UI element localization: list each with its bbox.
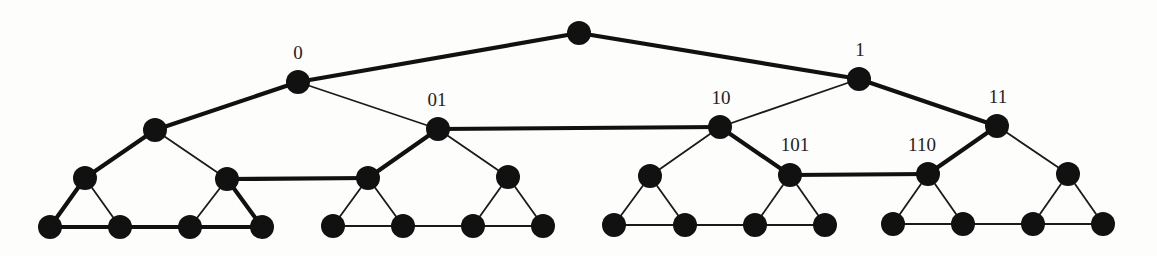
edge-r-0 xyxy=(298,33,579,82)
node-101 xyxy=(778,163,802,187)
node-011 xyxy=(496,165,520,189)
label-layer: 01011011101110 xyxy=(293,39,1007,155)
node-0 xyxy=(286,70,310,94)
node-L12 xyxy=(881,212,905,236)
node-L5 xyxy=(391,214,415,238)
node-L14 xyxy=(1021,212,1045,236)
node-110 xyxy=(916,162,940,186)
edge-01-10 xyxy=(438,127,720,129)
edge-10-101 xyxy=(720,127,790,175)
node-L3 xyxy=(250,215,274,239)
edge-1-11 xyxy=(859,79,997,126)
node-label: 11 xyxy=(989,86,1007,107)
node-L0 xyxy=(38,215,62,239)
node-010 xyxy=(356,166,380,190)
node-L2 xyxy=(178,215,202,239)
node-label: 10 xyxy=(712,87,731,108)
edge-00-001 xyxy=(155,130,227,179)
node-00 xyxy=(143,118,167,142)
node-100 xyxy=(638,164,662,188)
node-11 xyxy=(985,114,1009,138)
node-label: 110 xyxy=(908,134,936,155)
edge-01-010 xyxy=(368,129,438,178)
node-label: 01 xyxy=(428,89,447,110)
node-000 xyxy=(73,166,97,190)
edge-001-010 xyxy=(227,178,368,179)
node-label: 101 xyxy=(781,134,810,155)
edge-10-100 xyxy=(650,127,720,176)
edge-r-1 xyxy=(579,33,859,79)
node-label: 0 xyxy=(293,42,303,63)
node-r xyxy=(567,21,591,45)
edge-00-000 xyxy=(85,130,155,178)
node-111 xyxy=(1056,162,1080,186)
tree-diagram: 01011011101110 xyxy=(0,0,1157,256)
edge-101-110 xyxy=(790,174,928,175)
edge-1-10 xyxy=(720,79,859,127)
node-L8 xyxy=(602,213,626,237)
node-01 xyxy=(426,117,450,141)
node-L9 xyxy=(673,213,697,237)
node-1 xyxy=(847,67,871,91)
edge-11-110 xyxy=(928,126,997,174)
node-001 xyxy=(215,167,239,191)
node-L10 xyxy=(743,213,767,237)
edge-01-011 xyxy=(438,129,508,177)
node-label: 1 xyxy=(855,39,865,60)
node-L1 xyxy=(108,215,132,239)
edge-0-00 xyxy=(155,82,298,130)
edge-layer xyxy=(50,33,1103,227)
edge-0-01 xyxy=(298,82,438,129)
node-L13 xyxy=(951,212,975,236)
node-L7 xyxy=(531,214,555,238)
node-L15 xyxy=(1091,212,1115,236)
edge-11-111 xyxy=(997,126,1068,174)
node-L11 xyxy=(813,213,837,237)
node-10 xyxy=(708,115,732,139)
node-L4 xyxy=(321,214,345,238)
node-L6 xyxy=(461,214,485,238)
